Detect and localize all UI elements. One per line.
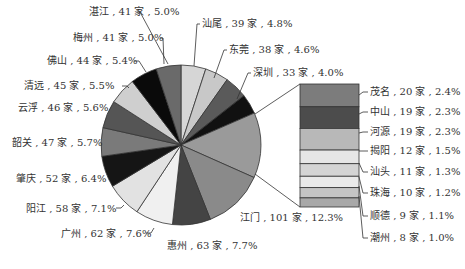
label-jiangmen: 江门 , 101 家 , 12.3%	[240, 212, 343, 224]
label-shantou: 汕头 , 11 家 , 1.3%	[370, 166, 460, 178]
label-jieyang: 揭阳 , 12 家 , 1.5%	[370, 145, 460, 157]
label-shaoguan: 韶关 , 47 家 , 5.7%	[12, 137, 102, 149]
bar-segment	[300, 150, 359, 164]
bar-segment	[300, 128, 359, 150]
bar-segment	[300, 198, 359, 207]
label-shenzhen: 深圳 , 33 家 , 4.0%	[253, 67, 343, 79]
bar-segment	[300, 107, 359, 129]
label-heyuan: 河源 , 19 家 , 2.3%	[370, 126, 460, 138]
bar-segment	[300, 164, 359, 177]
label-meizhou: 梅州 , 41 家 , 5.0%	[73, 32, 163, 44]
label-zhuhai: 珠海 , 10 家 , 1.2%	[370, 187, 460, 199]
label-foshan: 佛山 , 44 家 , 5.4%	[47, 55, 137, 67]
label-qingyuan: 清远 , 45 家 , 5.5%	[24, 80, 114, 92]
bar-segment	[300, 84, 359, 107]
bar-segment	[300, 188, 359, 198]
label-dongguan: 东莞 , 38 家 , 4.6%	[229, 44, 319, 56]
label-maoming: 茂名 , 20 家 , 2.4%	[370, 86, 460, 98]
label-zhongshan: 中山 , 19 家 , 2.3%	[370, 106, 460, 118]
label-chaozhou: 潮州 , 8 家 , 1.0%	[370, 232, 454, 244]
stacked-bar	[300, 84, 359, 207]
label-shunde: 顺德 , 9 家 , 1.1%	[370, 210, 454, 222]
label-huizhou: 惠州 , 63 家 , 7.7%	[167, 240, 257, 252]
label-zhanjiang: 湛江 , 41 家 , 5.0%	[89, 6, 179, 18]
label-shanwei: 汕尾 , 39 家 , 4.8%	[202, 18, 292, 30]
label-zhaoqing: 肇庆 , 52 家 , 6.4%	[16, 173, 106, 185]
label-guangzhou: 广州 , 62 家 , 7.6%	[61, 228, 151, 240]
label-yangjiang: 阳江 , 58 家 , 7.1%	[26, 203, 116, 215]
bar-segment	[300, 176, 359, 187]
label-yunfu: 云浮 , 46 家 , 5.6%	[18, 102, 108, 114]
pie	[101, 65, 261, 225]
